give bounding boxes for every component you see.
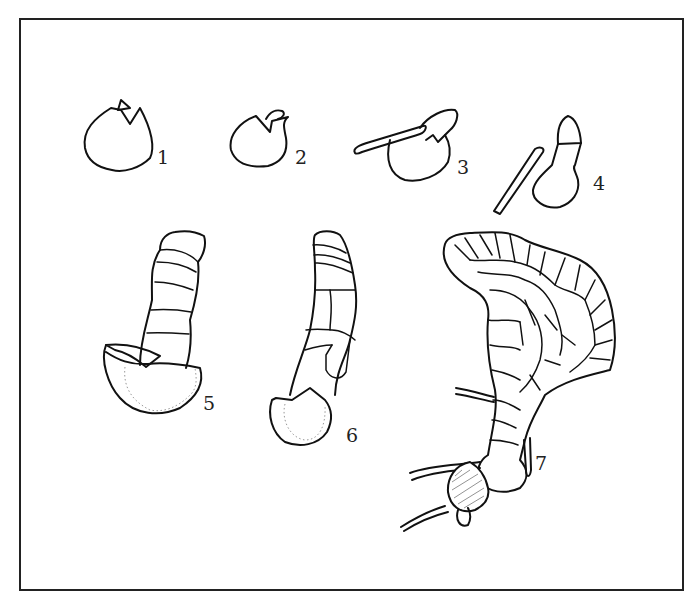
stage-3-germinating: 3 [354, 110, 469, 181]
stage-7-prothallus: 7 [401, 232, 615, 531]
stage-1-spore: 1 [85, 100, 170, 171]
stage-5-filament: 5 [104, 231, 215, 414]
stage-label-6: 6 [346, 424, 358, 446]
stage-4-filament: 4 [494, 116, 605, 214]
figure-canvas: 1 2 3 4 5 [0, 0, 700, 601]
stage-label-2: 2 [295, 146, 307, 168]
stage-6-filament: 6 [270, 231, 358, 446]
stage-label-1: 1 [157, 146, 169, 168]
stage-label-4: 4 [593, 172, 605, 194]
stage-label-3: 3 [457, 156, 469, 178]
stage-label-7: 7 [535, 452, 547, 474]
stage-2-spore: 2 [231, 110, 308, 168]
stage-label-5: 5 [203, 392, 215, 414]
